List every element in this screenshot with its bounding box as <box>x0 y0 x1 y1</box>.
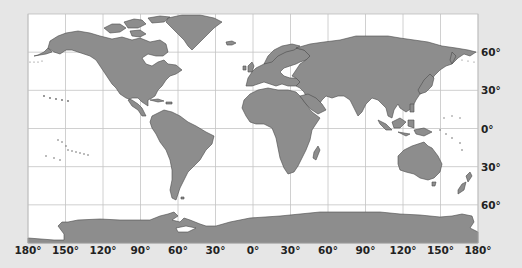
falkland-islands <box>181 197 184 199</box>
longitude-label: 150° <box>52 244 79 256</box>
longitude-label: 30° <box>206 244 226 256</box>
longitude-label: 150° <box>427 244 454 256</box>
latitude-label: 0° <box>481 123 494 135</box>
latitude-label: 30° <box>481 161 501 173</box>
longitude-label: 60° <box>168 244 188 256</box>
longitude-label: 120° <box>389 244 416 256</box>
tasmania <box>432 182 436 186</box>
longitude-label: 30° <box>281 244 301 256</box>
longitude-label: 180° <box>14 244 41 256</box>
latitude-label: 60° <box>481 199 501 211</box>
longitude-label: 60° <box>318 244 338 256</box>
latitude-label: 30° <box>481 84 501 96</box>
world-map <box>0 0 522 268</box>
longitude-label: 120° <box>89 244 116 256</box>
longitude-label: 180° <box>464 244 491 256</box>
latitude-label: 60° <box>481 46 501 58</box>
longitude-label: 0° <box>247 244 260 256</box>
longitude-label: 90° <box>356 244 376 256</box>
longitude-label: 90° <box>131 244 151 256</box>
